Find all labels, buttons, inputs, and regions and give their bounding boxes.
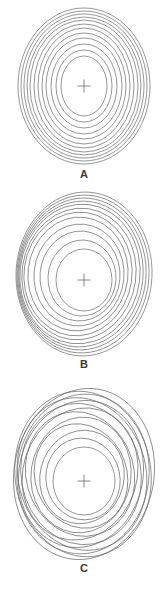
figure-page: A B C bbox=[0, 0, 168, 595]
center-cross-marker bbox=[78, 274, 91, 287]
contour-ring bbox=[12, 197, 148, 351]
contour-ring bbox=[4, 384, 162, 566]
figure-a-diagram bbox=[0, 0, 168, 175]
figure-a-label: A bbox=[0, 168, 168, 180]
center-cross-marker bbox=[78, 80, 91, 93]
contour-ring bbox=[5, 389, 157, 560]
contour-ring bbox=[36, 228, 124, 325]
contour-ring bbox=[29, 220, 129, 331]
figure-c-label: C bbox=[0, 562, 168, 574]
figure-b-diagram bbox=[0, 188, 168, 368]
figure-c: C bbox=[0, 384, 168, 584]
figure-b-label: B bbox=[0, 358, 168, 370]
figure-b: B bbox=[0, 188, 168, 378]
center-cross-marker bbox=[78, 475, 91, 488]
figure-c-diagram bbox=[0, 384, 168, 574]
figure-a: A bbox=[0, 0, 168, 185]
contour-ring bbox=[46, 238, 118, 317]
